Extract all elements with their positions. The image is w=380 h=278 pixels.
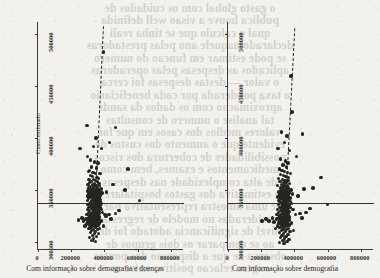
data-point xyxy=(271,216,274,219)
x-tick xyxy=(361,249,362,252)
data-point xyxy=(283,141,286,144)
plot-area-right xyxy=(227,22,373,250)
y-tick xyxy=(225,86,228,87)
data-point xyxy=(301,132,304,135)
data-point xyxy=(114,126,117,129)
data-point xyxy=(102,224,105,227)
data-point xyxy=(276,147,279,150)
data-point xyxy=(138,199,141,202)
data-point xyxy=(109,217,112,220)
x-axis-title: Com informação sobre demografia xyxy=(190,264,380,273)
data-point xyxy=(105,190,108,193)
y-tick xyxy=(35,34,38,35)
data-point xyxy=(291,192,294,195)
data-point xyxy=(302,187,305,190)
data-point xyxy=(279,157,282,160)
x-tick-label: 600000 xyxy=(122,254,152,261)
data-point xyxy=(308,207,311,210)
data-point xyxy=(85,124,88,127)
data-point xyxy=(267,219,270,222)
y-tick xyxy=(35,86,38,87)
data-point xyxy=(87,170,90,173)
y-tick xyxy=(35,190,38,191)
x-tick xyxy=(171,249,172,252)
y-tick xyxy=(35,242,38,243)
data-point xyxy=(98,172,101,175)
data-point xyxy=(111,183,114,186)
data-point xyxy=(100,147,103,150)
x-tick-label: 800000 xyxy=(155,254,185,261)
data-point xyxy=(274,227,277,230)
y-tick xyxy=(225,34,228,35)
data-point xyxy=(298,212,301,215)
y-tick xyxy=(225,190,228,191)
data-point xyxy=(326,203,329,206)
data-point xyxy=(95,235,98,238)
x-tick xyxy=(328,249,329,252)
data-point xyxy=(295,155,298,158)
data-point xyxy=(294,213,297,216)
data-point xyxy=(296,194,299,197)
data-point xyxy=(280,130,283,133)
y-axis-title: Custo estimado xyxy=(34,104,41,164)
data-point xyxy=(304,211,307,214)
x-tick xyxy=(228,249,229,252)
data-point xyxy=(126,167,129,170)
data-point xyxy=(114,212,117,215)
x-axis-title: Com informação sobre demografia e doença… xyxy=(0,264,190,273)
x-tick-label: 0 xyxy=(22,254,52,261)
x-tick-label: 200000 xyxy=(245,254,275,261)
data-point xyxy=(289,172,292,175)
reference-line xyxy=(228,203,374,204)
x-tick-label: 600000 xyxy=(312,254,342,261)
data-point xyxy=(300,216,303,219)
x-tick xyxy=(71,249,72,252)
data-point xyxy=(272,220,275,223)
data-point xyxy=(319,176,322,179)
plot-area-left xyxy=(37,22,183,250)
data-point xyxy=(291,208,294,211)
data-point xyxy=(92,145,95,148)
data-point xyxy=(89,158,92,161)
data-point xyxy=(77,218,80,221)
panel-right: 3000003500004000004500005000000200000400… xyxy=(190,0,380,278)
y-tick xyxy=(225,242,228,243)
x-tick xyxy=(104,249,105,252)
data-point xyxy=(123,188,126,191)
x-tick-label: 0 xyxy=(212,254,242,261)
x-tick xyxy=(138,249,139,252)
x-tick-label: 800000 xyxy=(345,254,375,261)
data-point xyxy=(292,229,295,232)
x-tick-label: 200000 xyxy=(55,254,85,261)
x-tick xyxy=(261,249,262,252)
x-tick-label: 400000 xyxy=(278,254,308,261)
data-point xyxy=(117,209,120,212)
data-point xyxy=(108,141,111,144)
figure-container: 3000003500004000004500005000000200000400… xyxy=(0,0,380,278)
data-point xyxy=(278,241,281,244)
x-tick xyxy=(294,249,295,252)
data-point xyxy=(78,147,81,150)
data-point xyxy=(90,165,93,168)
data-point xyxy=(264,217,267,220)
x-tick xyxy=(38,249,39,252)
y-tick xyxy=(225,138,228,139)
data-point xyxy=(260,219,263,222)
reference-line xyxy=(38,203,184,204)
data-point xyxy=(107,213,110,216)
panel-left: 3000003500004000004500005000000200000400… xyxy=(0,0,190,278)
data-point xyxy=(311,186,314,189)
x-tick-label: 400000 xyxy=(88,254,118,261)
